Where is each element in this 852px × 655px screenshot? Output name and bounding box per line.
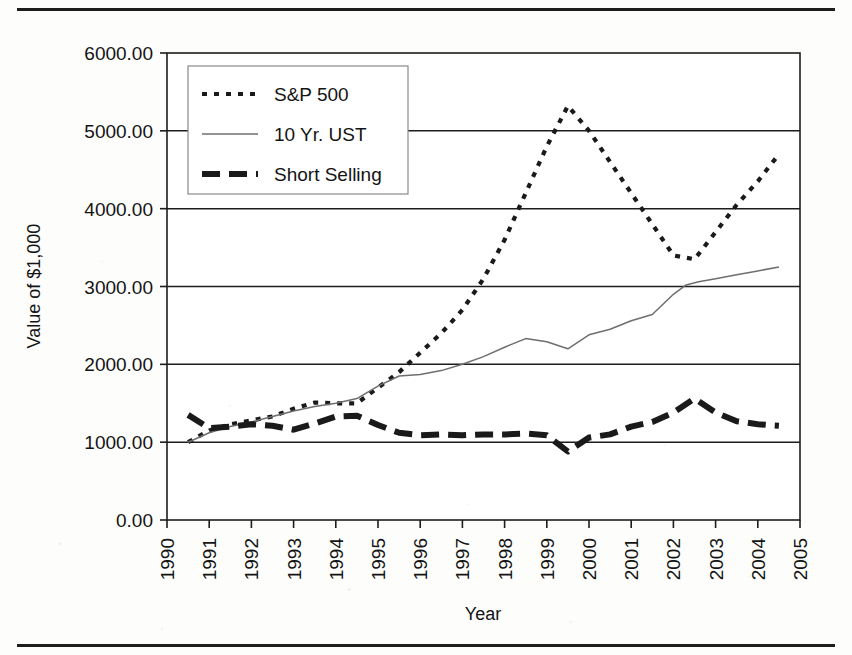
line-chart-figure: 0.001000.002000.003000.004000.005000.006… <box>0 14 852 638</box>
chart-canvas: 0.001000.002000.003000.004000.005000.006… <box>0 14 852 638</box>
x-axis-tick-label: 1997 <box>452 538 473 580</box>
x-axis-title: Year <box>465 604 501 624</box>
x-axis-tick-label: 1992 <box>241 538 262 580</box>
x-axis-tick-label: 1996 <box>410 538 431 580</box>
x-axis-tick-label: 2005 <box>790 538 811 580</box>
legend-label: 10 Yr. UST <box>274 124 367 145</box>
x-axis-tick-label: 1993 <box>284 538 305 580</box>
x-axis-tick-label: 1995 <box>368 538 389 580</box>
y-axis-tick-label: 4000.00 <box>84 199 153 220</box>
y-axis-tick-label: 2000.00 <box>84 354 153 375</box>
x-axis-tick-label: 2000 <box>579 538 600 580</box>
x-axis-tick-label: 2004 <box>748 538 769 581</box>
legend-label: Short Selling <box>274 164 382 185</box>
x-axis-ticks <box>167 520 800 528</box>
bottom-divider-rule <box>17 644 835 647</box>
x-axis-tick-label: 2001 <box>621 538 642 580</box>
x-axis-tick-label: 2003 <box>706 538 727 580</box>
top-divider-rule <box>17 8 835 11</box>
y-axis-tick-label: 1000.00 <box>84 432 153 453</box>
x-axis-tick-label: 1994 <box>326 538 347 581</box>
y-axis-tick-label: 5000.00 <box>84 121 153 142</box>
x-axis-tick-label: 1999 <box>537 538 558 580</box>
x-axis-tick-labels: 1990199119921993199419951996199719981999… <box>157 538 811 581</box>
y-axis-tick-label: 3000.00 <box>84 277 153 298</box>
y-axis-tick-labels: 0.001000.002000.003000.004000.005000.006… <box>84 43 153 531</box>
x-axis-tick-label: 1990 <box>157 538 178 580</box>
y-axis-tick-label: 6000.00 <box>84 43 153 64</box>
y-axis-ticks <box>160 53 167 520</box>
legend-label: S&P 500 <box>274 84 349 105</box>
x-axis-tick-label: 1991 <box>199 538 220 580</box>
x-axis-tick-label: 2002 <box>663 538 684 580</box>
y-axis-title: Value of $1,000 <box>24 224 44 349</box>
x-axis-tick-label: 1998 <box>495 538 516 580</box>
y-axis-tick-label: 0.00 <box>116 510 153 531</box>
chart-legend: S&P 50010 Yr. USTShort Selling <box>188 66 408 194</box>
